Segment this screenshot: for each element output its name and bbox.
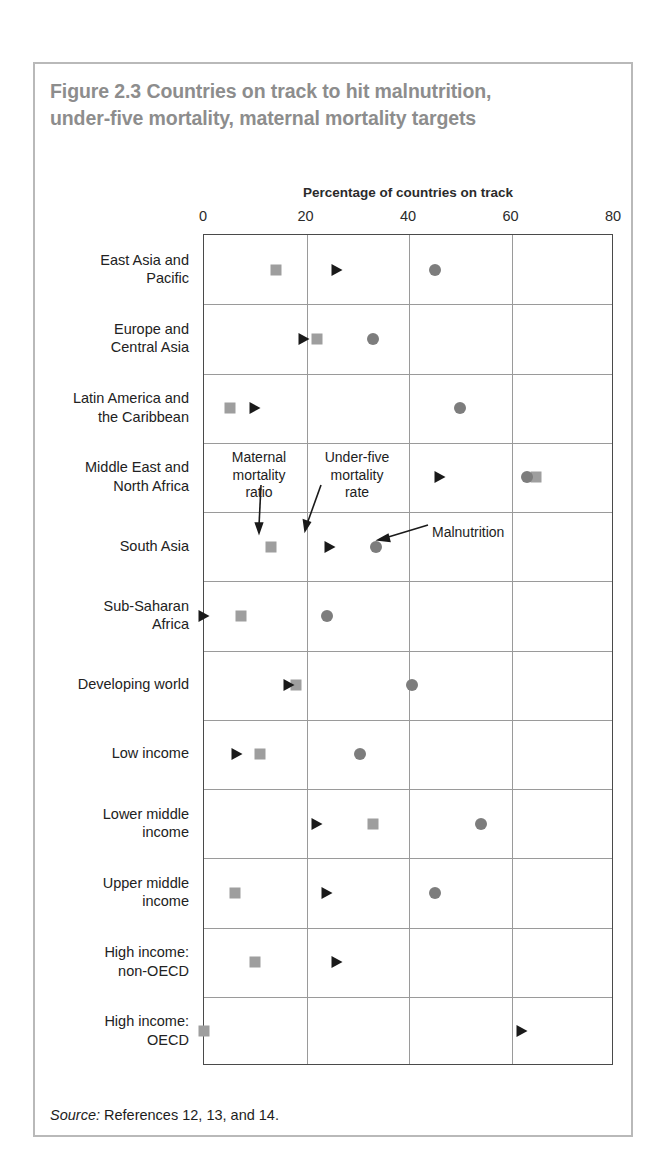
- data-point-circle-9: [429, 887, 441, 899]
- data-point-triangle-8: [311, 818, 322, 830]
- data-point-circle-0: [429, 264, 441, 276]
- data-point-square-5: [235, 610, 246, 621]
- data-point-circle-6: [406, 679, 418, 691]
- row-separator-1: [204, 304, 612, 305]
- row-separator-5: [204, 581, 612, 582]
- figure-title: Figure 2.3 Countries on track to hit mal…: [50, 78, 620, 132]
- data-point-triangle-3: [434, 471, 445, 483]
- row-separator-4: [204, 512, 612, 513]
- row-separator-11: [204, 997, 612, 998]
- row-separator-8: [204, 789, 612, 790]
- annotation-under-five-mortality: Under-five mortality rate: [308, 449, 406, 502]
- row-separator-3: [204, 443, 612, 444]
- figure-title-line-1: Figure 2.3 Countries on track to hit mal…: [50, 78, 620, 105]
- y-category-label-2: Latin America andthe Caribbean: [29, 389, 189, 426]
- x-tick-label-40: 40: [400, 208, 416, 224]
- y-category-label-4: South Asia: [29, 536, 189, 555]
- source-label: Source:: [50, 1107, 100, 1123]
- data-point-triangle-2: [250, 402, 261, 414]
- row-separator-7: [204, 720, 612, 721]
- source-note: Source: References 12, 13, and 14.: [50, 1107, 279, 1123]
- y-category-label-7: Low income: [29, 744, 189, 763]
- y-category-label-10: High income:non-OECD: [29, 943, 189, 980]
- data-point-square-10: [250, 957, 261, 968]
- figure-title-line-2: under-five mortality, maternal mortality…: [50, 105, 620, 132]
- row-separator-10: [204, 928, 612, 929]
- data-point-square-1: [311, 333, 322, 344]
- data-point-triangle-9: [322, 887, 333, 899]
- data-point-circle-3: [521, 471, 533, 483]
- y-category-label-5: Sub-SaharanAfrica: [29, 596, 189, 633]
- data-point-square-8: [368, 818, 379, 829]
- data-point-circle-5: [321, 610, 333, 622]
- data-point-triangle-10: [332, 956, 343, 968]
- vertical-gridline-60: [512, 235, 513, 1064]
- data-point-square-0: [270, 264, 281, 275]
- y-category-label-1: Europe andCentral Asia: [29, 319, 189, 356]
- row-separator-6: [204, 651, 612, 652]
- y-category-label-3: Middle East andNorth Africa: [29, 458, 189, 495]
- data-point-square-2: [224, 403, 235, 414]
- data-point-circle-4: [370, 541, 382, 553]
- x-tick-label-60: 60: [502, 208, 518, 224]
- data-point-square-7: [255, 749, 266, 760]
- data-point-circle-8: [475, 818, 487, 830]
- x-tick-label-80: 80: [605, 208, 621, 224]
- data-point-circle-7: [354, 748, 366, 760]
- data-point-circle-1: [367, 333, 379, 345]
- row-separator-2: [204, 374, 612, 375]
- x-axis-tick-labels: 020406080: [0, 208, 666, 230]
- data-point-triangle-0: [332, 264, 343, 276]
- data-point-triangle-1: [298, 333, 309, 345]
- x-tick-label-0: 0: [199, 208, 207, 224]
- data-point-square-9: [229, 887, 240, 898]
- y-axis-category-labels: East Asia andPacificEurope andCentral As…: [33, 234, 196, 1065]
- data-point-triangle-6: [283, 679, 294, 691]
- y-category-label-11: High income:OECD: [29, 1012, 189, 1049]
- annotation-maternal-mortality: Maternal mortality ratio: [213, 449, 305, 502]
- y-category-label-8: Lower middleincome: [29, 804, 189, 841]
- y-category-label-6: Developing world: [29, 675, 189, 694]
- data-point-triangle-11: [516, 1025, 527, 1037]
- y-category-label-0: East Asia andPacific: [29, 250, 189, 287]
- x-tick-label-20: 20: [297, 208, 313, 224]
- data-point-circle-2: [454, 402, 466, 414]
- row-separator-9: [204, 858, 612, 859]
- source-text: References 12, 13, and 14.: [100, 1107, 279, 1123]
- data-point-triangle-5: [199, 610, 210, 622]
- data-point-triangle-4: [324, 541, 335, 553]
- data-point-square-11: [199, 1026, 210, 1037]
- plot-area: Maternal mortality ratio Under-five mort…: [203, 234, 613, 1065]
- y-category-label-9: Upper middleincome: [29, 873, 189, 910]
- vertical-gridline-20: [307, 235, 308, 1064]
- x-axis-title: Percentage of countries on track: [203, 185, 613, 200]
- data-point-triangle-7: [232, 748, 243, 760]
- figure-page: Figure 2.3 Countries on track to hit mal…: [0, 0, 666, 1165]
- data-point-square-4: [265, 541, 276, 552]
- vertical-gridline-40: [409, 235, 410, 1064]
- annotation-malnutrition: Malnutrition: [432, 524, 504, 542]
